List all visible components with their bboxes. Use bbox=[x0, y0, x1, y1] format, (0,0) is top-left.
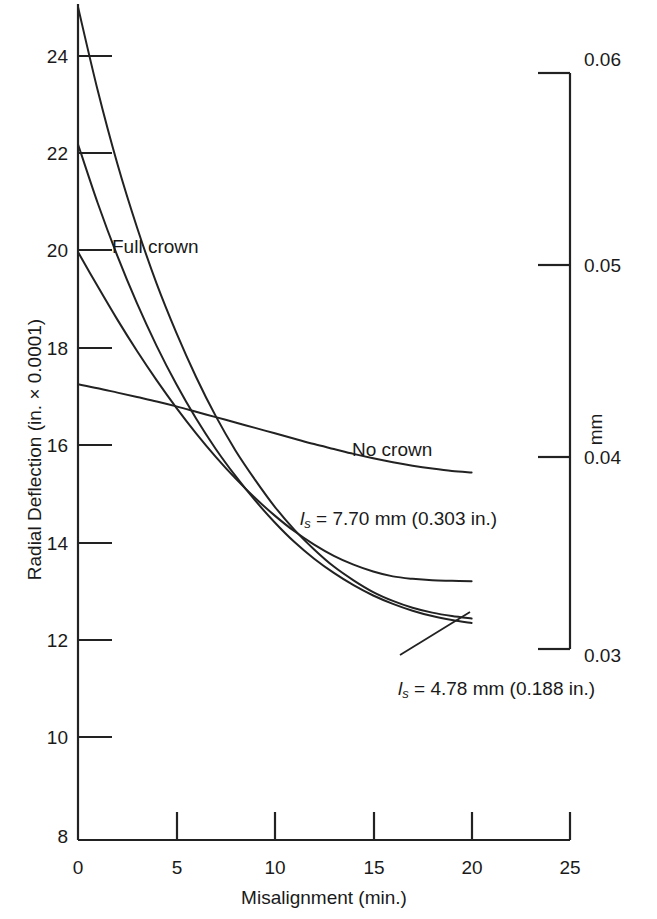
annotation-ls-478: ls = 4.78 mm (0.188 in.) bbox=[398, 679, 595, 700]
ytick-label-24: 24 bbox=[24, 47, 68, 66]
right-axis-ticks bbox=[538, 73, 570, 649]
xtick-label-5: 5 bbox=[172, 858, 183, 877]
chart-figure: 24 22 20 18 16 14 12 10 8 0.06 0.05 0.04… bbox=[0, 0, 657, 919]
bottom-axis-ticks bbox=[177, 812, 570, 840]
xtick-label-0: 0 bbox=[73, 858, 84, 877]
annotation-full-crown: Full crown bbox=[112, 237, 199, 256]
annotation-ls-478-text: = 4.78 mm (0.188 in.) bbox=[414, 678, 595, 699]
y-axis-title-left: Radial Deflection (in. × 0.0001) bbox=[25, 290, 44, 610]
leader-line-ls-478 bbox=[400, 612, 470, 655]
annotation-ls-770: ls = 7.70 mm (0.303 in.) bbox=[300, 509, 497, 530]
xtick-label-25: 25 bbox=[559, 858, 580, 877]
ytick-label-20: 20 bbox=[24, 241, 68, 260]
ytick-label-8: 8 bbox=[24, 827, 68, 846]
x-axis-title: Misalignment (min.) bbox=[78, 888, 570, 907]
annotation-ls-770-text: = 7.70 mm (0.303 in.) bbox=[316, 508, 497, 529]
xtick-label-10: 10 bbox=[264, 858, 285, 877]
y-axis-title-right: mm bbox=[586, 370, 605, 490]
annotation-ls-770-subscript: s bbox=[304, 516, 311, 531]
annotation-ls-478-subscript: s bbox=[402, 686, 409, 701]
ytick-right-label-005: 0.05 bbox=[584, 256, 621, 275]
xtick-label-20: 20 bbox=[461, 858, 482, 877]
ytick-label-10: 10 bbox=[24, 728, 68, 747]
ytick-right-label-006: 0.06 bbox=[584, 50, 621, 69]
ytick-label-22: 22 bbox=[24, 144, 68, 163]
ytick-label-12: 12 bbox=[24, 631, 68, 650]
curve-ls-478 bbox=[78, 144, 472, 623]
data-curves bbox=[78, 7, 472, 623]
annotation-no-crown: No crown bbox=[352, 440, 432, 459]
xtick-label-15: 15 bbox=[363, 858, 384, 877]
ytick-right-label-003: 0.03 bbox=[584, 646, 621, 665]
chart-plot-area bbox=[0, 0, 657, 919]
